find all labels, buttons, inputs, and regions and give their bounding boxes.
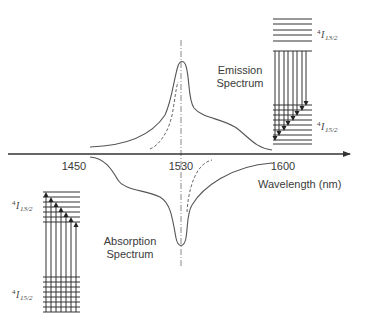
svg-text:Absorption: Absorption [104,235,157,247]
tick-1530: 1530 [169,160,193,172]
svg-text:13/2: 13/2 [325,34,338,42]
svg-text:15/2: 15/2 [325,126,338,134]
tick-1450: 1450 [62,160,86,172]
svg-text:Emission: Emission [218,64,263,76]
left-upper-level-label: 4 I 13/2 [12,199,33,213]
svg-text:13/2: 13/2 [20,205,33,213]
absorption-label: Absorption Spectrum [104,235,157,260]
axis-tick-labels: 1450 1530 1600 Wavelength (nm) [62,160,342,190]
svg-text:15/2: 15/2 [20,294,33,302]
x-axis-label: Wavelength (nm) [258,178,341,190]
emission-label: Emission Spectrum [216,64,263,89]
emission-dashed-curve [150,82,178,149]
erbium-spectrum-diagram: 1450 1530 1600 Wavelength (nm) Emission … [0,0,365,330]
svg-text:Spectrum: Spectrum [106,248,153,260]
svg-text:Spectrum: Spectrum [216,77,263,89]
right-upper-level-label: 4 I 13/2 [317,28,338,42]
right-lower-level-label: 4 I 15/2 [317,120,338,134]
emission-energy-levels [273,19,312,144]
left-lower-level-label: 4 I 15/2 [12,288,33,302]
tick-1600: 1600 [271,160,295,172]
